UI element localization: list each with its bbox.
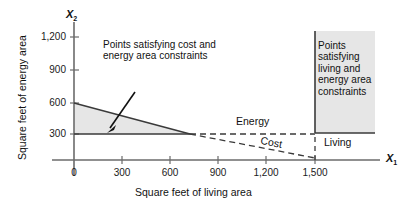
y-tick-label-900: 900 [24,64,66,75]
y-tick-label-600: 600 [24,97,66,108]
y-axis-variable-name: X2 [66,8,77,22]
left-region-annotation: Points satisfying cost and energy area c… [103,39,223,62]
y-axis-variable-subscript: 2 [73,15,77,22]
x-tick-label-1200: 1,200 [246,167,286,178]
y-tick-label-1200: 1,200 [24,31,66,42]
x-axis-variable-subscript: 1 [393,159,397,166]
x-tick-label-300: 300 [102,167,142,178]
y-axis-title: Square feet of energy area [16,35,28,160]
living-line-label: Living [324,136,351,148]
x-tick-label-900: 900 [198,167,238,178]
chart-figure: 1,200 900 600 300 0 300 600 900 1,200 1,… [0,0,408,212]
x-axis-variable-name: X1 [386,152,397,166]
x-tick-label-1500: 1,500 [295,167,335,178]
x-axis-title: Square feet of living area [135,186,252,198]
y-tick-label-300: 300 [24,128,66,139]
energy-line-label: Energy [236,115,269,127]
x-tick-label-0: 0 [54,167,94,178]
cost-line-dashed [190,134,315,158]
x-tick-label-600: 600 [150,167,190,178]
right-region-annotation: Points satisfying living and energy area… [318,40,374,97]
